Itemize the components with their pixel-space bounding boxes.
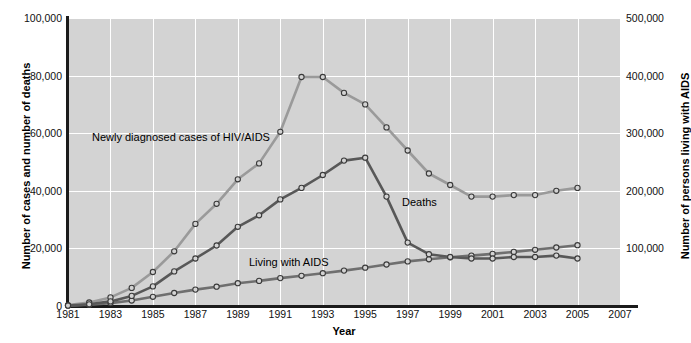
data-point-marker	[533, 254, 538, 259]
data-point-marker	[405, 148, 410, 153]
data-point-marker	[108, 299, 113, 304]
data-point-marker	[533, 193, 538, 198]
data-point-marker	[235, 281, 240, 286]
data-point-marker	[363, 155, 368, 160]
data-point-marker	[235, 224, 240, 229]
data-point-marker	[554, 245, 559, 250]
series-label-hiv: Newly diagnosed cases of HIV/AIDS	[92, 132, 270, 143]
x-axis-tick-label: 1985	[131, 309, 175, 320]
data-point-marker	[278, 276, 283, 281]
data-point-marker	[511, 193, 516, 198]
x-axis-tick-label: 1995	[343, 309, 387, 320]
x-axis-tick-label: 2007	[598, 309, 642, 320]
x-axis-tick-label: 1989	[216, 309, 260, 320]
data-point-marker	[469, 194, 474, 199]
data-point-marker	[511, 249, 516, 254]
data-point-marker	[193, 287, 198, 292]
data-point-marker	[405, 259, 410, 264]
data-point-marker	[150, 284, 155, 289]
x-axis-tick-label: 1981	[46, 309, 90, 320]
data-point-marker	[150, 269, 155, 274]
data-point-marker	[469, 256, 474, 261]
x-axis-tick-label: 1991	[258, 309, 302, 320]
data-point-marker	[214, 201, 219, 206]
data-point-marker	[278, 197, 283, 202]
x-axis-tick-label: 2001	[471, 309, 515, 320]
series-deaths	[65, 155, 580, 308]
x-axis-tick-label: 2005	[556, 309, 600, 320]
data-point-marker	[320, 172, 325, 177]
data-point-marker	[448, 182, 453, 187]
data-point-marker	[575, 256, 580, 261]
data-point-marker	[341, 268, 346, 273]
data-point-marker	[299, 74, 304, 79]
data-point-marker	[554, 253, 559, 258]
data-point-marker	[511, 254, 516, 259]
data-point-marker	[257, 161, 262, 166]
data-point-marker	[172, 269, 177, 274]
data-point-marker	[299, 273, 304, 278]
data-point-marker	[426, 252, 431, 257]
data-point-marker	[193, 256, 198, 261]
data-point-marker	[405, 240, 410, 245]
data-point-marker	[172, 249, 177, 254]
data-point-marker	[554, 188, 559, 193]
data-point-marker	[426, 257, 431, 262]
data-point-marker	[214, 284, 219, 289]
series-line	[68, 158, 578, 306]
data-point-marker	[87, 302, 92, 307]
data-point-marker	[490, 256, 495, 261]
data-point-marker	[129, 293, 134, 298]
x-axis-tick-label: 1993	[301, 309, 345, 320]
data-point-marker	[426, 171, 431, 176]
x-axis-tick-label: 2003	[513, 309, 557, 320]
data-point-marker	[341, 158, 346, 163]
data-point-marker	[575, 243, 580, 248]
data-point-marker	[363, 265, 368, 270]
series-label-living: Living with AIDS	[249, 257, 328, 268]
data-point-marker	[299, 185, 304, 190]
x-axis-tick-label: 1983	[88, 309, 132, 320]
data-point-marker	[150, 294, 155, 299]
data-point-marker	[575, 185, 580, 190]
data-point-marker	[278, 129, 283, 134]
data-point-marker	[448, 254, 453, 259]
data-point-marker	[363, 102, 368, 107]
x-axis-tick-label: 1997	[386, 309, 430, 320]
data-point-marker	[320, 271, 325, 276]
data-point-marker	[384, 262, 389, 267]
data-point-marker	[384, 125, 389, 130]
data-point-marker	[257, 278, 262, 283]
x-axis-tick-label: 1999	[428, 309, 472, 320]
data-point-marker	[257, 213, 262, 218]
data-point-marker	[533, 247, 538, 252]
data-point-marker	[214, 243, 219, 248]
data-point-marker	[490, 194, 495, 199]
data-point-marker	[320, 74, 325, 79]
data-point-marker	[341, 90, 346, 95]
data-point-marker	[235, 177, 240, 182]
data-point-marker	[172, 290, 177, 295]
series-label-deaths: Deaths	[402, 197, 437, 208]
figure-caption	[4, 336, 604, 343]
x-axis-tick-label: 1987	[173, 309, 217, 320]
series-living	[65, 243, 580, 309]
data-point-marker	[129, 285, 134, 290]
data-point-marker	[384, 194, 389, 199]
data-point-marker	[193, 221, 198, 226]
